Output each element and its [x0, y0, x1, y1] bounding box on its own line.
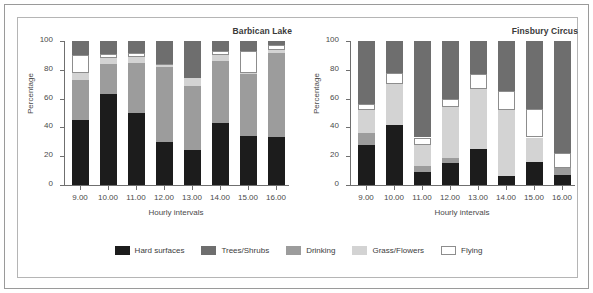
legend-item-flying[interactable]: Flying — [441, 246, 482, 255]
bar-segment-trees-shrubs — [470, 41, 487, 74]
bar-segment-grass-flowers — [358, 110, 375, 133]
x-axis-label-left: Hourly intervals — [64, 208, 288, 217]
chart-legend: Hard surfacesTrees/ShrubsDrinkingGrass/F… — [18, 246, 579, 255]
bar-segment-grass-flowers — [498, 110, 515, 176]
bar-segment-flying — [470, 74, 487, 88]
y-tick-label-right: 100 — [326, 35, 339, 44]
x-tick-right — [366, 186, 367, 190]
bar-segment-hard-surfaces — [414, 172, 431, 185]
x-tick-label-left: 14.00 — [210, 193, 230, 202]
plot-area-right: 0204060801009.0010.0011.0012.0013.0014.0… — [350, 41, 574, 185]
legend-swatch-icon — [286, 246, 301, 255]
x-tick-right — [534, 186, 535, 190]
legend-item-label: Hard surfaces — [135, 246, 185, 255]
bar-segment-grass-flowers — [414, 145, 431, 167]
bar-segment-hard-surfaces — [386, 125, 403, 185]
legend-item-trees-shrubs[interactable]: Trees/Shrubs — [201, 246, 269, 255]
y-tick-left: 20 — [60, 156, 64, 157]
x-tick-label-right: 10.00 — [384, 193, 404, 202]
y-tick-right: 0 — [346, 185, 350, 186]
x-tick-label-left: 11.00 — [126, 193, 145, 202]
figure-inner-border: Barbican Lake Percentage 0204060801009.0… — [17, 17, 578, 278]
y-tick-label-right: 40 — [330, 121, 339, 130]
legend-item-grass-flowers[interactable]: Grass/Flowers — [352, 246, 424, 255]
y-tick-left: 100 — [60, 41, 64, 42]
bar-segment-grass-flowers — [128, 57, 145, 63]
bar-segment-trees-shrubs — [100, 41, 117, 54]
legend-swatch-icon — [441, 246, 456, 255]
bar-right-12.00 — [442, 41, 459, 185]
x-axis-line-right — [350, 185, 575, 186]
y-tick-left: 0 — [60, 185, 64, 186]
bar-segment-grass-flowers — [156, 65, 173, 66]
bar-segment-flying — [128, 53, 145, 57]
bar-segment-drinking — [184, 86, 201, 151]
bar-segment-trees-shrubs — [358, 41, 375, 104]
bar-segment-flying — [498, 91, 515, 110]
legend-item-drinking[interactable]: Drinking — [286, 246, 335, 255]
legend-swatch-icon — [352, 246, 367, 255]
x-tick-label-left: 15.00 — [238, 193, 258, 202]
x-tick-label-left: 10.00 — [98, 193, 118, 202]
bar-segment-hard-surfaces — [72, 120, 89, 185]
bar-segment-drinking — [100, 64, 117, 94]
y-tick-right: 60 — [346, 99, 350, 100]
bar-segment-hard-surfaces — [212, 123, 229, 185]
bar-segment-drinking — [128, 63, 145, 113]
x-tick-right — [478, 186, 479, 190]
x-tick-left — [80, 186, 81, 190]
bar-segment-hard-surfaces — [128, 113, 145, 185]
y-tick-left: 60 — [60, 99, 64, 100]
legend-swatch-icon — [201, 246, 216, 255]
bar-right-15.00 — [526, 41, 543, 185]
bar-segment-hard-surfaces — [358, 145, 375, 185]
bar-segment-grass-flowers — [240, 73, 257, 74]
y-tick-right: 100 — [346, 41, 350, 42]
bar-segment-flying — [240, 51, 257, 73]
bar-segment-drinking — [414, 166, 431, 172]
bar-segment-flying — [100, 54, 117, 58]
bar-left-16.00 — [268, 41, 285, 185]
bar-segment-trees-shrubs — [72, 41, 89, 55]
y-tick-label-left: 60 — [44, 93, 53, 102]
bar-segment-grass-flowers — [100, 58, 117, 64]
bar-right-13.00 — [470, 41, 487, 185]
bar-segment-drinking — [554, 168, 571, 175]
bar-segment-flying — [268, 45, 285, 49]
x-tick-label-right: 13.00 — [468, 193, 488, 202]
bar-segment-grass-flowers — [72, 73, 89, 80]
plot-area-left: 0204060801009.0010.0011.0012.0013.0014.0… — [64, 41, 288, 185]
bar-segment-trees-shrubs — [442, 41, 459, 99]
legend-item-label: Trees/Shrubs — [221, 246, 269, 255]
x-tick-left — [136, 186, 137, 190]
bar-segment-trees-shrubs — [156, 41, 173, 64]
x-tick-label-right: 11.00 — [412, 193, 431, 202]
x-tick-label-right: 9.00 — [358, 193, 374, 202]
chart-title-left: Barbican Lake — [233, 26, 292, 36]
bar-segment-drinking — [212, 61, 229, 123]
x-tick-label-right: 16.00 — [552, 193, 572, 202]
chart-title-right: Finsbury Circus — [512, 26, 578, 36]
bar-left-10.00 — [100, 41, 117, 185]
chart-panel-finsbury-circus: Finsbury Circus Percentage 0204060801009… — [306, 26, 584, 234]
y-tick-label-left: 100 — [40, 35, 53, 44]
bar-segment-flying — [554, 153, 571, 167]
legend-item-hard-surfaces[interactable]: Hard surfaces — [115, 246, 185, 255]
bar-segment-hard-surfaces — [240, 136, 257, 185]
bar-segment-trees-shrubs — [240, 41, 257, 51]
bar-segment-hard-surfaces — [498, 176, 515, 185]
bar-segment-drinking — [268, 53, 285, 138]
y-tick-left: 40 — [60, 127, 64, 128]
x-tick-left — [248, 186, 249, 190]
legend-swatch-icon — [115, 246, 130, 255]
y-tick-label-right: 20 — [330, 150, 339, 159]
bar-segment-drinking — [442, 158, 459, 164]
bar-segment-grass-flowers — [526, 138, 543, 162]
bar-right-14.00 — [498, 41, 515, 185]
bar-segment-drinking — [240, 74, 257, 136]
bar-segment-drinking — [358, 133, 375, 145]
bar-segment-hard-surfaces — [442, 163, 459, 185]
bar-segment-flying — [358, 104, 375, 110]
y-axis-line-left — [64, 41, 65, 186]
bar-left-11.00 — [128, 41, 145, 185]
